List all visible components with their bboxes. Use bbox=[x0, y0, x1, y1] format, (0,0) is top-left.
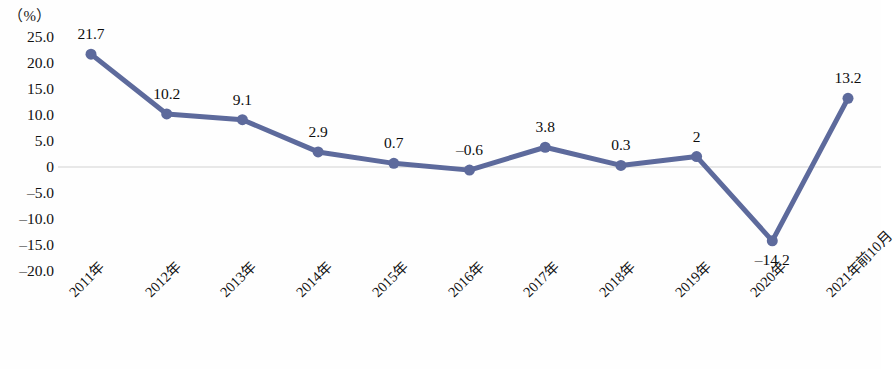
data-point-label-5: –0.6 bbox=[456, 141, 483, 159]
x-axis-tick-8: 2019年 bbox=[669, 256, 714, 301]
data-point-label-0: 21.7 bbox=[77, 25, 104, 43]
x-axis-tick-7: 2018年 bbox=[593, 256, 638, 301]
data-point-label-9: –14.2 bbox=[755, 251, 790, 269]
x-axis-tick-6: 2017年 bbox=[517, 256, 562, 301]
x-axis-tick-5: 2016年 bbox=[442, 256, 487, 301]
data-point-label-10: 13.2 bbox=[834, 69, 861, 87]
x-axis-tick-3: 2014年 bbox=[290, 256, 335, 301]
data-point-label-8: 2 bbox=[693, 128, 701, 146]
x-axis-tick-0: 2011年 bbox=[63, 256, 108, 301]
x-axis-tick-10: 2021年前10月 bbox=[820, 226, 895, 301]
x-axis-tick-1: 2012年 bbox=[139, 256, 184, 301]
data-point-label-1: 10.2 bbox=[153, 85, 180, 103]
data-point-label-7: 0.3 bbox=[611, 136, 630, 154]
x-axis-tick-4: 2015年 bbox=[366, 256, 411, 301]
data-point-label-3: 2.9 bbox=[308, 123, 327, 141]
data-point-label-2: 9.1 bbox=[233, 91, 252, 109]
data-point-label-4: 0.7 bbox=[384, 134, 403, 152]
data-point-label-6: 3.8 bbox=[536, 118, 555, 136]
x-axis-tick-2: 2013年 bbox=[214, 256, 259, 301]
